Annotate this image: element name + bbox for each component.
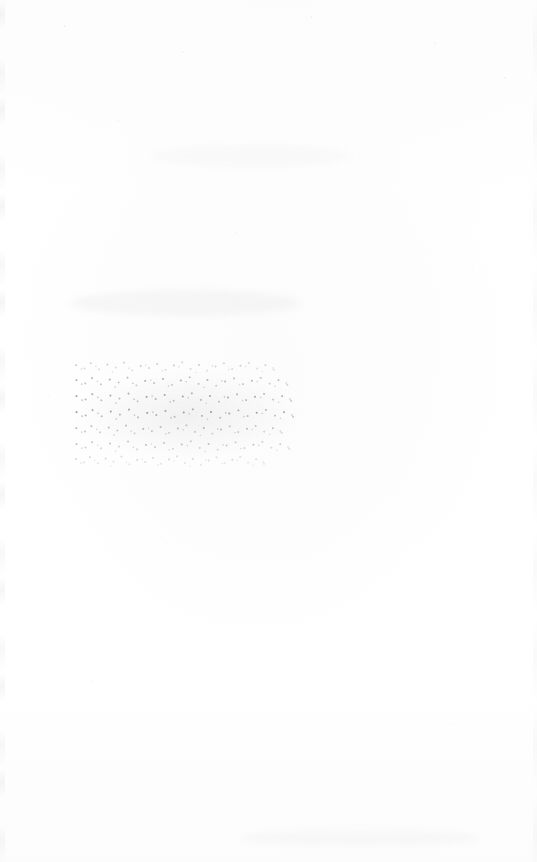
- illegible-text-line: [72, 407, 300, 420]
- illegible-text-line: [72, 439, 296, 452]
- illegible-text-line: [72, 454, 270, 467]
- illegible-text-line: [72, 423, 288, 436]
- illegible-text-line: [72, 375, 294, 388]
- smudge-bottom: [240, 830, 480, 846]
- illegible-text-line: [72, 360, 280, 373]
- smudge-upper: [150, 145, 350, 167]
- scan-edge-artifact-left: [0, 0, 5, 862]
- scanned-page: No characters are resolvable at maximum …: [0, 0, 537, 862]
- illegible-text-line: [72, 391, 298, 404]
- scan-edge-artifact-right: [533, 0, 537, 862]
- faded-text-block: No characters are resolvable at maximum …: [72, 358, 300, 472]
- ink-bleed-wash: [72, 358, 300, 472]
- smudge-middle: [70, 290, 300, 316]
